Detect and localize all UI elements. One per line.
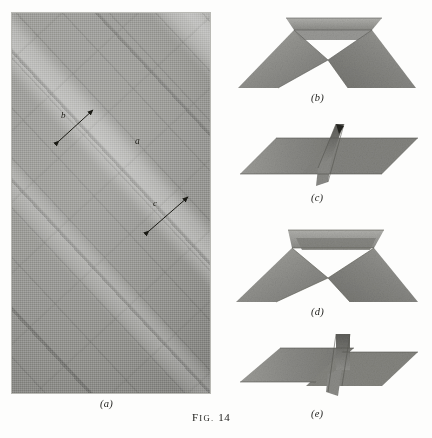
panel-c-caption: (c) xyxy=(311,192,323,203)
panel-d-caption: (d) xyxy=(311,306,324,317)
figure-caption: FIG. 14 xyxy=(192,411,230,423)
panel-d-svg xyxy=(232,228,422,306)
panel-e-svg xyxy=(232,330,422,400)
annotation-label-a: a xyxy=(135,137,140,147)
panel-c-svg xyxy=(232,122,422,194)
panel-b-caption: (b) xyxy=(311,92,324,103)
panel-e-caption: (e) xyxy=(311,408,323,419)
annotation-label-b: b xyxy=(61,111,66,120)
figure-page: b a c (a) xyxy=(0,0,432,438)
panel-c-model xyxy=(232,122,422,194)
figure-caption-smallcaps: IG. xyxy=(199,413,214,423)
panel-a-photograph: b a c xyxy=(12,13,210,393)
panel-a-caption: (a) xyxy=(100,398,113,409)
annotation-label-c: c xyxy=(153,199,157,208)
panel-e-model xyxy=(232,330,422,400)
panel-b-model xyxy=(232,12,422,92)
figure-caption-number: 14 xyxy=(218,411,230,423)
dimension-arrow-c xyxy=(140,189,198,239)
panel-b-svg xyxy=(232,12,422,92)
dimension-arrow-b xyxy=(50,103,102,149)
panel-d-model xyxy=(232,228,422,306)
